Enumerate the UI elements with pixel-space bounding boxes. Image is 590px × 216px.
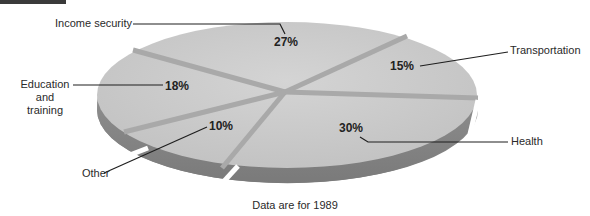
percent-income-security: 27% (274, 35, 298, 49)
percent-health: 30% (339, 121, 363, 135)
pie-chart (0, 0, 590, 216)
chart-caption: Data are for 1989 (0, 199, 590, 211)
percent-other: 10% (209, 119, 233, 133)
label-health: Health (511, 135, 543, 148)
label-education-line3: training (19, 104, 71, 117)
percent-education: 18% (165, 79, 189, 93)
label-education-line2: and (19, 91, 71, 104)
percent-transportation: 15% (390, 59, 414, 73)
label-other: Other (82, 167, 110, 180)
label-education-line1: Education (19, 78, 71, 91)
label-income-security: Income security (55, 17, 132, 30)
label-transportation: Transportation (510, 44, 581, 57)
label-education-training: Education and training (19, 78, 71, 117)
